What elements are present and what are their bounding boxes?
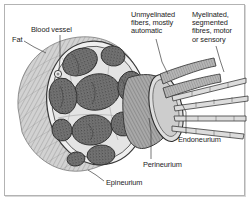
label-fat: Fat xyxy=(12,36,22,44)
label-blood-vessel: Blood vessel xyxy=(31,26,72,34)
figure-canvas: Fat Blood vessel Unmyelinated fibers, mo… xyxy=(0,0,251,202)
label-myelinated-fibers: Myelinated, segmented fibres, motor or s… xyxy=(192,11,250,44)
label-unmyelinated-fibers: Unmyelinated fibers, mostly automatic xyxy=(131,11,191,36)
label-perineurium: Perineurium xyxy=(143,161,182,169)
leader-epineurium xyxy=(88,170,104,181)
leader-unmyelinated xyxy=(156,39,168,74)
label-epineurium: Epineurium xyxy=(106,179,142,187)
leader-fat xyxy=(24,41,46,53)
label-endoneurium: Endoneurium xyxy=(178,136,221,144)
blood-vessel xyxy=(54,70,61,77)
leader-myelinated xyxy=(216,46,224,72)
